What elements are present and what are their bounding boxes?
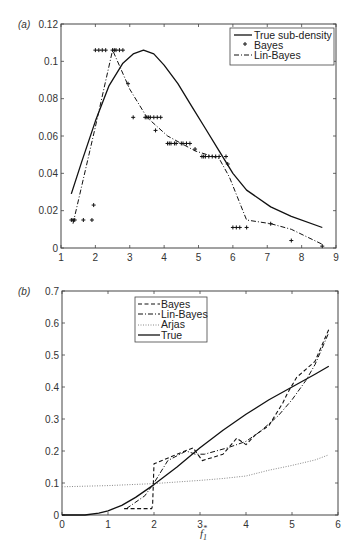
data-point-plus bbox=[81, 218, 85, 222]
data-point-plus bbox=[152, 115, 156, 119]
x-tick-label: 5 bbox=[196, 252, 202, 263]
data-point-plus bbox=[92, 203, 96, 207]
data-point-plus bbox=[155, 115, 159, 119]
x-tick-label: 5 bbox=[289, 519, 295, 530]
x-tick-label: 6 bbox=[230, 252, 236, 263]
data-point-plus bbox=[104, 48, 108, 52]
panel-a-legend: True sub-density Bayes Lin-Bayes bbox=[230, 28, 334, 65]
y-tick-label: 0.1 bbox=[44, 56, 58, 67]
panel-a-series bbox=[69, 48, 324, 248]
data-point-plus bbox=[97, 48, 101, 52]
y-tick-label: 0.7 bbox=[45, 286, 59, 297]
y-tick-label: 0.5 bbox=[45, 350, 59, 361]
data-point-plus bbox=[289, 239, 293, 243]
series-true-sub-density bbox=[71, 50, 322, 227]
x-axis-label: f1* bbox=[200, 524, 207, 542]
y-tick-label: 0.02 bbox=[39, 205, 59, 216]
figure: (a) 12345678900.020.040.060.080.10.12 Tr… bbox=[0, 0, 356, 552]
panel-a-label: (a) bbox=[18, 19, 30, 30]
data-point-plus bbox=[245, 225, 249, 229]
x-tick-label: 8 bbox=[299, 252, 305, 263]
y-tick-label: 0.1 bbox=[45, 478, 59, 489]
y-tick-label: 0.12 bbox=[39, 19, 59, 30]
x-tick-label: 6 bbox=[335, 519, 341, 530]
data-point-plus bbox=[159, 115, 163, 119]
x-tick-label: 4 bbox=[243, 519, 249, 530]
x-tick-label: 7 bbox=[264, 252, 270, 263]
panel-b-chart: (b) 012345600.10.20.30.40.50.60.7 Bayes … bbox=[18, 286, 341, 543]
x-tick-label: 1 bbox=[105, 519, 111, 530]
series-true bbox=[62, 366, 329, 515]
legend-true-label: True bbox=[161, 329, 182, 341]
x-tick-label: 1 bbox=[58, 252, 64, 263]
panel-b-series bbox=[62, 329, 329, 515]
data-point-plus bbox=[188, 141, 192, 145]
series-arjas bbox=[62, 455, 329, 487]
data-point-plus bbox=[234, 225, 238, 229]
y-tick-label: 0 bbox=[52, 243, 58, 254]
data-point-plus bbox=[238, 225, 242, 229]
data-point-plus bbox=[231, 225, 235, 229]
data-point-plus bbox=[224, 155, 228, 159]
series-lin-bayes bbox=[73, 50, 322, 244]
panel-b-label: (b) bbox=[18, 286, 30, 297]
x-tick-label: 0 bbox=[59, 519, 65, 530]
y-tick-label: 0.2 bbox=[45, 446, 59, 457]
data-point-plus bbox=[117, 48, 121, 52]
y-tick-label: 0.3 bbox=[45, 414, 59, 425]
series-bayes bbox=[69, 48, 324, 248]
data-point-plus bbox=[154, 128, 158, 132]
y-tick-label: 0.04 bbox=[39, 168, 59, 179]
x-tick-label: 4 bbox=[161, 252, 167, 263]
series-bayes bbox=[124, 329, 329, 508]
panel-a-chart: (a) 12345678900.020.040.060.080.10.12 Tr… bbox=[18, 19, 339, 264]
x-tick-label: 9 bbox=[333, 252, 339, 263]
y-tick-label: 0.08 bbox=[39, 93, 59, 104]
x-tick-label: 2 bbox=[151, 519, 157, 530]
data-point-plus bbox=[131, 115, 135, 119]
data-point-plus bbox=[100, 48, 104, 52]
y-tick-label: 0.06 bbox=[39, 131, 59, 142]
data-point-plus bbox=[90, 218, 94, 222]
y-tick-label: 0 bbox=[53, 510, 59, 521]
data-point-plus bbox=[93, 48, 97, 52]
data-point-plus bbox=[121, 48, 125, 52]
panel-b-legend: Bayes Lin-Bayes Arjas True bbox=[135, 297, 208, 342]
x-tick-label: 3 bbox=[127, 252, 133, 263]
y-tick-label: 0.6 bbox=[45, 318, 59, 329]
data-point-plus bbox=[184, 141, 188, 145]
x-tick-label: 2 bbox=[93, 252, 99, 263]
legend-lin-bayes-label: Lin-Bayes bbox=[254, 49, 301, 61]
y-tick-label: 0.4 bbox=[45, 382, 59, 393]
